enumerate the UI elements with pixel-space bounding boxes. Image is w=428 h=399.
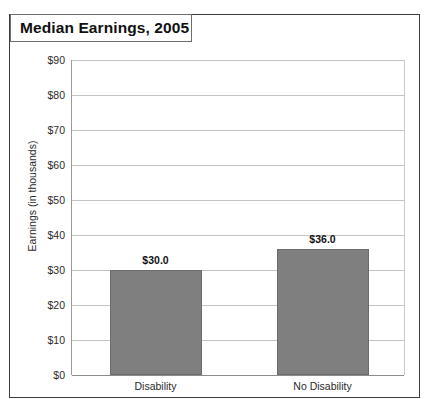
clipped-source-note [12,392,412,399]
y-axis-tick-label: $30 [19,264,65,276]
bar[interactable] [110,270,202,375]
y-axis-tick-label: $70 [19,124,65,136]
y-axis-tick-label: $0 [19,369,65,381]
bar-value-label: $30.0 [142,254,168,266]
y-axis-tick-label: $10 [19,334,65,346]
gridline [72,165,404,166]
y-axis-tick-label: $80 [19,89,65,101]
x-axis-tick-label: No Disability [293,380,351,392]
gridline [72,200,404,201]
gridline [72,95,404,96]
chart-title-box: Median Earnings, 2005 [10,14,192,42]
y-axis-tick-label: $60 [19,159,65,171]
bar-value-label: $36.0 [309,233,335,245]
gridline [72,60,404,61]
x-axis-tick-label: Disability [134,380,176,392]
gridline [72,235,404,236]
bar[interactable] [277,249,369,375]
chart-title: Median Earnings, 2005 [20,19,189,37]
y-axis-tick-label: $40 [19,229,65,241]
y-axis-tick-label: $50 [19,194,65,206]
gridline [72,130,404,131]
y-axis-tick-labels: $0$10$20$30$40$50$60$70$80$90 [19,60,65,375]
y-axis-tick-label: $90 [19,54,65,66]
y-axis-tick-label: $20 [19,299,65,311]
plot-area: $30.0Disability$36.0No Disability [71,60,405,375]
chart-figure: Median Earnings, 2005 Earnings (in thous… [0,0,428,399]
